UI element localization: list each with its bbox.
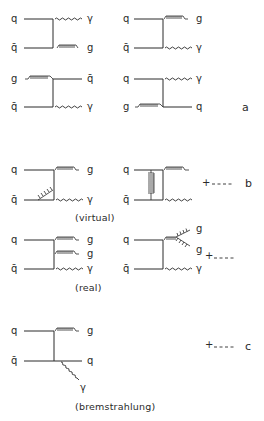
label-out-2: g <box>196 244 202 255</box>
label-in-top: q <box>11 234 17 245</box>
label-out-top: g <box>196 13 202 24</box>
label-in-top: q <box>11 13 17 24</box>
split-gluon-upper <box>176 229 190 238</box>
label-out-bot: γ <box>87 101 93 112</box>
label-out-1: g <box>196 223 202 234</box>
plus-sign: + <box>205 339 213 350</box>
label-in-top: q <box>123 73 129 84</box>
split-gluon-lower <box>176 237 190 247</box>
gluon-line-1 <box>55 237 79 240</box>
gluon-line <box>164 167 189 170</box>
photon-line <box>165 47 192 49</box>
gluon-line <box>25 76 53 79</box>
label-in-top: q <box>11 164 17 175</box>
diagram-c-bremsstrahlung: q q̄ g q γ <box>11 325 93 393</box>
plus-sign: + <box>202 177 210 188</box>
group-tag-c: c <box>245 340 251 353</box>
label-in-bot: q̄ <box>11 263 17 274</box>
label-out-3: γ <box>87 263 93 274</box>
label-in-bot: q̄ <box>123 263 129 274</box>
diagram-b-real-1: q q̄ g g γ <box>11 234 93 274</box>
gluon-line <box>164 237 176 240</box>
label-in-bot: q̄ <box>123 194 129 205</box>
label-out-3: γ <box>196 263 202 274</box>
label-in-top: q <box>123 13 129 24</box>
diagram-b-virtual-2: q q̄ <box>123 164 192 205</box>
label-in-bot: q̄ <box>123 42 129 53</box>
label-out-top: g <box>87 164 93 175</box>
label-in-bot: q̄ <box>11 101 17 112</box>
photon-line <box>61 362 79 380</box>
plus-sign: + <box>205 250 213 261</box>
label-out-photon: γ <box>80 382 86 393</box>
label-out-bot: γ <box>87 194 93 205</box>
photon-line <box>165 268 192 270</box>
gluon-line <box>55 328 79 331</box>
caption-virtual: (virtual) <box>75 212 115 223</box>
diagram-a2: q q̄ g γ <box>123 13 202 53</box>
gluon-line-2 <box>55 251 79 254</box>
diagram-a3: g q̄ q̄ γ <box>11 73 93 112</box>
photon-line <box>55 106 82 108</box>
label-in-top: q <box>123 164 129 175</box>
gluon-line <box>57 45 78 48</box>
label-out-bot: g <box>87 42 93 53</box>
gluon-line <box>164 16 188 19</box>
diagram-a1: q q̄ γ g <box>11 13 93 53</box>
virtual-gluon-exchange <box>148 170 154 200</box>
caption-bremsstrahlung: (bremstrahlung) <box>75 401 155 412</box>
photon-line <box>165 78 192 80</box>
gluon-line <box>135 104 163 107</box>
label-out-mid: q <box>87 355 93 366</box>
diagram-b-real-2: q q̄ g g γ <box>123 223 202 274</box>
diagram-b-virtual-1: q q̄ g γ <box>11 164 93 205</box>
label-out-top: γ <box>87 13 93 24</box>
group-tag-a: a <box>242 101 249 114</box>
label-out-top: γ <box>196 73 202 84</box>
label-in-bot: q̄ <box>11 42 17 53</box>
label-out-top: q̄ <box>87 73 93 84</box>
label-out-bot: γ <box>196 42 202 53</box>
photon-line <box>55 18 82 20</box>
label-in-bot: q̄ <box>11 194 17 205</box>
label-in-bot: q̄ <box>11 355 17 366</box>
virtual-gluon-loop <box>38 187 53 200</box>
feynman-diagram-figure: q q̄ γ g q q̄ g γ g q̄ q̄ γ q g <box>0 0 264 421</box>
label-in-top: q <box>123 234 129 245</box>
label-in-bot: g <box>123 101 129 112</box>
label-out-bot: q <box>196 101 202 112</box>
gluon-line <box>55 167 79 170</box>
photon-line <box>165 199 192 201</box>
label-in-top: q <box>11 325 17 336</box>
photon-line <box>56 268 83 270</box>
caption-real: (real) <box>75 282 102 293</box>
label-in-top: g <box>11 73 17 84</box>
group-tag-b: b <box>245 177 252 190</box>
diagram-a4: q g γ q <box>123 73 202 112</box>
photon-line <box>56 199 83 201</box>
label-out-2: g <box>87 248 93 259</box>
label-out-top: g <box>87 325 93 336</box>
label-out-1: g <box>87 234 93 245</box>
